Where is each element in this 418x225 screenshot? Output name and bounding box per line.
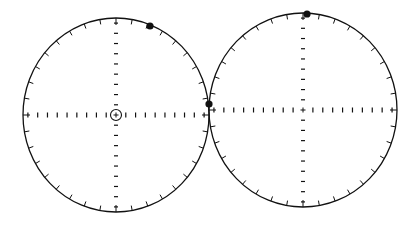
rim-tick	[35, 67, 39, 70]
rim-tick	[348, 26, 351, 30]
rim-tick	[56, 41, 59, 45]
rim-tick	[160, 31, 163, 35]
rim-tick	[100, 206, 101, 211]
right-stereonet	[209, 10, 397, 207]
rim-tick	[215, 141, 220, 143]
rim-tick	[380, 62, 384, 65]
rim-tick	[387, 141, 392, 143]
rim-tick	[183, 174, 187, 177]
rim-tick	[380, 156, 384, 159]
rim-tick	[271, 19, 273, 24]
center-plus-icon	[301, 108, 306, 113]
rim-tick	[243, 180, 246, 184]
rim-tick	[131, 19, 132, 24]
rim-tick	[333, 19, 335, 24]
rim-tick	[215, 77, 220, 79]
rim-tick	[29, 146, 34, 148]
rim-tick	[371, 169, 375, 172]
rim-tick	[231, 48, 235, 51]
rim-tick	[391, 126, 396, 127]
rim-tick	[360, 36, 363, 40]
rim-tick	[287, 14, 288, 19]
rim-tick	[287, 201, 288, 206]
rim-tick	[199, 146, 204, 148]
data-point	[146, 22, 153, 29]
rim-tick	[210, 126, 215, 127]
rim-tick	[70, 31, 73, 35]
rim-tick	[387, 77, 392, 79]
left-stereonet	[23, 18, 213, 212]
rim-tick	[183, 53, 187, 56]
rim-tick	[84, 24, 86, 29]
rim-tick	[360, 180, 363, 184]
rim-tick	[45, 53, 49, 56]
rim-tick	[391, 93, 396, 94]
rim-tick	[35, 161, 39, 164]
rim-tick	[256, 26, 259, 30]
rim-tick	[45, 174, 49, 177]
rim-tick	[256, 190, 259, 194]
rim-tick	[199, 82, 204, 84]
rim-tick	[203, 98, 208, 99]
rim-tick	[84, 201, 86, 206]
data-point	[303, 10, 310, 17]
rim-tick	[222, 156, 226, 159]
rim-tick	[333, 196, 335, 201]
rim-tick	[131, 206, 132, 211]
rim-tick	[100, 19, 101, 24]
rim-tick	[371, 48, 375, 51]
rim-tick	[192, 67, 196, 70]
rim-tick	[160, 195, 163, 199]
rim-tick	[271, 196, 273, 201]
rim-tick	[70, 195, 73, 199]
rim-tick	[203, 131, 208, 132]
rim-tick	[173, 41, 176, 45]
rim-tick	[146, 201, 148, 206]
rim-tick	[222, 62, 226, 65]
rim-tick	[231, 169, 235, 172]
rim-tick	[29, 82, 34, 84]
rim-tick	[192, 161, 196, 164]
rim-tick	[173, 185, 176, 189]
rim-tick	[210, 93, 215, 94]
rim-tick	[318, 201, 319, 206]
rim-tick	[243, 36, 246, 40]
rim-tick	[318, 14, 319, 19]
rim-tick	[24, 98, 29, 99]
center-circled-plus-icon	[111, 110, 122, 121]
stereonet-diagram	[0, 0, 418, 225]
rim-tick	[56, 185, 59, 189]
rim-tick	[24, 131, 29, 132]
rim-tick	[348, 190, 351, 194]
